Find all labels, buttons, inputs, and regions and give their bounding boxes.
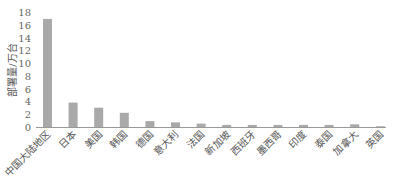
bar [94,108,103,128]
bar [69,103,78,128]
y-tick-label: 12 [18,45,31,56]
y-tick-label: 14 [18,33,31,44]
x-category-label: 中国大陆地区 [2,127,53,178]
y-tick-label: 8 [25,71,31,82]
y-tick-label: 18 [18,7,31,18]
bar [171,122,180,127]
x-category-label: 西班牙 [229,128,258,157]
x-axis-categories: 中国大陆地区日本美国韩国德国意大利法国新加坡西班牙墨西哥印度泰国加拿大英国 [2,127,386,178]
x-category-label: 法国 [184,127,207,150]
bars [43,19,385,128]
x-category-label: 新加坡 [202,127,232,157]
x-category-label: 加拿大 [330,127,360,157]
y-tick-label: 4 [25,96,31,107]
x-category-label: 意大利 [151,127,181,157]
bar [120,113,129,128]
x-category-label: 德国 [133,127,156,150]
x-category-label: 英国 [363,127,386,150]
x-category-label: 韩国 [107,127,130,150]
bar-chart: 024681012141618 部署量/万台 中国大陆地区日本美国韩国德国意大利… [0,0,396,179]
x-category-label: 印度 [286,127,309,150]
y-tick-label: 2 [25,109,31,120]
y-tick-label: 10 [18,58,31,69]
bar [197,124,206,128]
x-category-label: 美国 [81,127,104,150]
y-tick-label: 16 [18,20,31,31]
y-axis-label: 部署量/万台 [6,43,18,96]
y-axis-ticks: 024681012141618 [18,7,31,133]
y-tick-label: 6 [25,84,31,95]
bar [145,121,154,127]
y-tick-label: 0 [25,122,31,133]
x-category-label: 日本 [56,127,79,150]
bar [43,19,52,128]
x-category-label: 墨西哥 [254,128,283,157]
x-category-label: 泰国 [312,127,335,150]
